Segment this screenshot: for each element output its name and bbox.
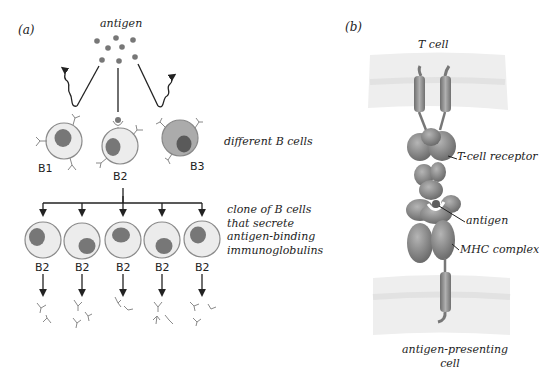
- panel-a-label: (a): [18, 23, 35, 37]
- clone-caption-line-3: antigen-binding: [227, 230, 323, 244]
- different-b-cells-caption: different B cells: [224, 135, 313, 148]
- antigen-label: antigen: [100, 17, 142, 30]
- panel-b-label: (b): [345, 20, 362, 34]
- b3-cell: [156, 118, 203, 164]
- antigen-peptide: [432, 200, 440, 208]
- clone-b2-label-5: B2: [195, 261, 210, 274]
- antigen-particles: [94, 35, 138, 64]
- clone-b2-label-2: B2: [75, 261, 90, 274]
- antigen-b-label: antigen: [466, 214, 508, 227]
- secreted-immunoglobulins: [37, 297, 216, 328]
- clone-b2-label-4: B2: [155, 261, 170, 274]
- b2-label: B2: [113, 170, 128, 183]
- t-cell-receptor-label: T-cell receptor: [457, 150, 538, 163]
- t-cell-label: T cell: [418, 38, 449, 51]
- antigen-approach-lines: [64, 64, 173, 112]
- b3-label: B3: [190, 160, 205, 173]
- clone-b2-label-1: B2: [35, 261, 50, 274]
- apc-label: antigen-presenting cell: [402, 343, 498, 370]
- clone-branch-lines: [43, 188, 202, 213]
- apc-label-line-1: antigen-presenting: [402, 343, 498, 357]
- clone-caption-line-4: immunoglobulins: [227, 244, 323, 258]
- clone-caption-line-1: clone of B cells: [227, 203, 323, 217]
- clone-caption: clone of B cells that secrete antigen-bi…: [227, 203, 323, 257]
- clone-b2-label-3: B2: [116, 261, 131, 274]
- b2-cell: [96, 117, 143, 168]
- apc-label-line-2: cell: [402, 357, 498, 371]
- clone-caption-line-2: that secrete: [227, 217, 323, 231]
- mhc-complex-label: MHC complex: [460, 243, 539, 256]
- b1-label: B1: [38, 162, 53, 175]
- clone-cells: [25, 221, 220, 259]
- secretion-arrows: [43, 274, 202, 293]
